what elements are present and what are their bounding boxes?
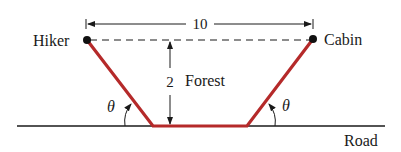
theta-left-label: θ bbox=[107, 98, 115, 115]
height-label: 2 bbox=[166, 74, 174, 90]
road-label: Road bbox=[344, 132, 378, 149]
hiker-point bbox=[83, 36, 91, 44]
cabin-point bbox=[309, 35, 317, 43]
angle-right-arc bbox=[269, 104, 275, 126]
hiker-label: Hiker bbox=[33, 32, 70, 49]
angle-left-arc bbox=[125, 104, 131, 126]
hiker-cabin-diagram: 10 2 Hiker Cabin Forest Road θ θ bbox=[0, 0, 401, 152]
theta-right-label: θ bbox=[282, 97, 290, 114]
width-label: 10 bbox=[193, 16, 208, 32]
forest-label: Forest bbox=[185, 72, 226, 89]
cabin-label: Cabin bbox=[324, 31, 362, 48]
